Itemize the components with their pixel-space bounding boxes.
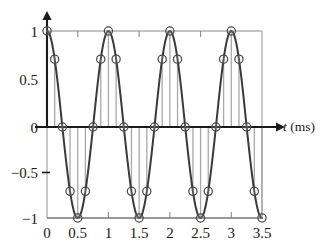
sample-marker <box>127 187 135 195</box>
sample-marker <box>97 55 105 63</box>
chart-figure: 00.511.522.533.5 −1−0.500.51 t (ms) <box>0 0 322 248</box>
sample-marker <box>235 55 243 63</box>
sample-marker <box>43 27 51 35</box>
sample-marker <box>89 123 97 131</box>
y-tick-label: 0 <box>31 120 39 136</box>
x-tick-label: 0 <box>43 225 51 241</box>
sample-marker <box>158 55 166 63</box>
sample-marker <box>243 123 251 131</box>
sample-marker <box>227 27 235 35</box>
x-tick-label: 2 <box>166 225 174 241</box>
sample-marker <box>135 214 143 222</box>
x-tick-label: 1.5 <box>130 225 149 241</box>
sample-marker <box>212 123 220 131</box>
y-tick-label: 1 <box>31 24 39 40</box>
y-tick-label: −1 <box>22 211 38 227</box>
y-tick-label: −0.5 <box>11 165 38 181</box>
sample-marker <box>74 214 82 222</box>
sample-marker <box>104 27 112 35</box>
sample-marker <box>112 55 120 63</box>
sample-marker <box>189 187 197 195</box>
y-tick-label: 0.5 <box>19 72 38 88</box>
x-tick-label: 0.5 <box>68 225 87 241</box>
sample-marker <box>173 55 181 63</box>
x-axis-label: t (ms) <box>283 119 315 134</box>
sample-marker <box>166 27 174 35</box>
x-tick-label: 1 <box>105 225 113 241</box>
x-tick-label: 3 <box>228 225 236 241</box>
sample-marker <box>220 55 228 63</box>
sample-marker <box>51 55 59 63</box>
sample-marker <box>81 187 89 195</box>
sample-marker <box>250 187 258 195</box>
x-tick-label: 2.5 <box>191 225 210 241</box>
sampled-cosine-stem-plot: 00.511.522.533.5 −1−0.500.51 t (ms) <box>0 0 322 248</box>
x-axis-unit: (ms) <box>290 119 315 134</box>
chart-background <box>0 0 322 248</box>
x-tick-label: 3.5 <box>253 225 272 241</box>
sample-marker <box>143 187 151 195</box>
sample-marker <box>196 214 204 222</box>
sample-marker <box>120 123 128 131</box>
sample-marker <box>181 123 189 131</box>
sample-marker <box>150 123 158 131</box>
sample-marker <box>66 187 74 195</box>
sample-marker <box>58 123 66 131</box>
sample-marker <box>258 214 266 222</box>
sample-marker <box>204 187 212 195</box>
